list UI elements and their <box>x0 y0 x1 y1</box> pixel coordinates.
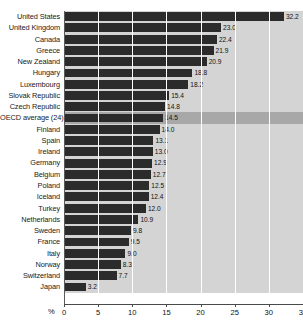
bar <box>64 204 146 213</box>
bar-value-label: 12.5 <box>149 180 164 191</box>
bar <box>64 80 188 89</box>
bar-value-label: 3.2 <box>86 281 97 292</box>
bar-value-label: 13.1 <box>153 135 168 146</box>
bar-track: 12.4 <box>64 191 303 202</box>
bar-track: 9.0 <box>64 248 303 259</box>
bar-row: Netherlands10.9 <box>0 214 303 225</box>
bar <box>64 46 214 55</box>
category-label: Poland <box>0 180 64 191</box>
bar-row: Czech Republic14.8 <box>0 101 303 112</box>
bar-value-label: 18.8 <box>192 67 207 78</box>
bar-track: 14.8 <box>64 101 303 112</box>
bar-value-label: 12.4 <box>149 191 164 202</box>
axis-tick <box>269 304 270 307</box>
bar-row: Japan3.2 <box>0 281 303 292</box>
category-label: Italy <box>0 248 64 259</box>
bar-track: 13.0 <box>64 146 303 157</box>
bar-track: 12.7 <box>64 169 303 180</box>
bar-value-label: 7.7 <box>117 270 128 281</box>
bar-track: 7.7 <box>64 270 303 281</box>
category-label: United States <box>0 11 64 22</box>
bar-value-label: 9.0 <box>125 248 136 259</box>
bar <box>64 159 152 168</box>
bar-value-label: 13.0 <box>153 146 168 157</box>
bar-row: Finland14.0 <box>0 124 303 135</box>
category-label: Spain <box>0 135 64 146</box>
bar-row: Sweden9.8 <box>0 225 303 236</box>
axis-tick <box>132 304 133 307</box>
bar-value-label: 12.9 <box>152 157 167 168</box>
bar <box>64 226 131 235</box>
bar <box>64 192 149 201</box>
bar-track: 14.0 <box>64 124 303 135</box>
x-axis: 05101520253035 <box>64 304 303 326</box>
bar-track: 14.5 <box>64 112 303 123</box>
axis-tick-label: 5 <box>96 308 100 317</box>
bar <box>64 23 221 32</box>
category-label: Germany <box>0 157 64 168</box>
bar <box>64 91 169 100</box>
bar-row: Iceland12.4 <box>0 191 303 202</box>
bar-value-label: 12.7 <box>151 169 166 180</box>
axis-tick-label: 35 <box>299 308 303 317</box>
bar <box>64 283 86 292</box>
category-label: Japan <box>0 281 64 292</box>
bar <box>64 12 284 21</box>
bar-row: Luxembourg18.2 <box>0 79 303 90</box>
category-label: Ireland <box>0 146 64 157</box>
bar-row: Canada22.4 <box>0 34 303 45</box>
bar-row: United States32.2 <box>0 11 303 22</box>
bar-value-label: 32.2 <box>284 11 299 22</box>
axis-tick-label: 15 <box>162 308 170 317</box>
axis-tick-label: 30 <box>265 308 273 317</box>
bar-value-label: 14.5 <box>163 112 178 123</box>
axis-line <box>64 304 303 305</box>
bar-row: Slovak Republic15.4 <box>0 90 303 101</box>
bar <box>64 215 138 224</box>
chart-rows: United States32.2United Kingdom23.0Canad… <box>0 11 303 304</box>
category-label: Belgium <box>0 169 64 180</box>
bar-track: 9.8 <box>64 225 303 236</box>
bar-row: Ireland13.0 <box>0 146 303 157</box>
bar-track: 12.9 <box>64 157 303 168</box>
bar-row: Hungary18.8 <box>0 67 303 78</box>
bar-row: Turkey12.0 <box>0 203 303 214</box>
bar-row: OECD average (24)14.5 <box>0 112 303 123</box>
bar-value-label: 20.9 <box>207 56 222 67</box>
bar <box>64 260 121 269</box>
category-label: Luxembourg <box>0 79 64 90</box>
axis-tick <box>98 304 99 307</box>
category-label: New Zealand <box>0 56 64 67</box>
bar-row: Norway8.3 <box>0 259 303 270</box>
category-label: Iceland <box>0 191 64 202</box>
bar <box>64 125 160 134</box>
bar-track: 20.9 <box>64 56 303 67</box>
category-label: Turkey <box>0 203 64 214</box>
bar-value-label: 18.2 <box>188 79 203 90</box>
category-label: Sweden <box>0 225 64 236</box>
axis-tick <box>166 304 167 307</box>
category-label: Slovak Republic <box>0 90 64 101</box>
bar <box>64 238 129 247</box>
bar <box>64 69 192 78</box>
bar-track: 8.3 <box>64 259 303 270</box>
bar <box>64 147 153 156</box>
bar-value-label: 10.9 <box>138 214 153 225</box>
category-label: France <box>0 236 64 247</box>
bar-track: 32.2 <box>64 11 303 22</box>
bar <box>64 114 163 123</box>
bar-row: Greece21.9 <box>0 45 303 56</box>
axis-tick-label: 25 <box>230 308 238 317</box>
bar-track: 23.0 <box>64 22 303 33</box>
bar-track: 10.9 <box>64 214 303 225</box>
bar-value-label: 14.8 <box>165 101 180 112</box>
category-label: Netherlands <box>0 214 64 225</box>
axis-tick-label: 10 <box>128 308 136 317</box>
bar-value-label: 9.5 <box>129 236 140 247</box>
bar-track: 12.0 <box>64 203 303 214</box>
category-label: Czech Republic <box>0 101 64 112</box>
bar-row: Switzerland7.7 <box>0 270 303 281</box>
bar <box>64 57 207 66</box>
axis-tick-label: 20 <box>196 308 204 317</box>
bar-value-label: 8.3 <box>121 259 132 270</box>
